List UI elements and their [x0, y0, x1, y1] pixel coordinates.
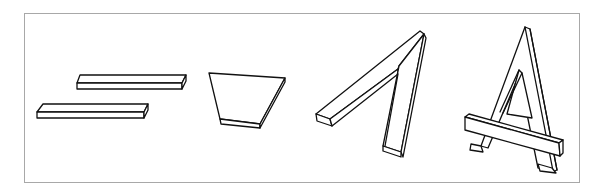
- step-3-seven-frame: [316, 31, 426, 157]
- assembly-diagram: [0, 0, 606, 192]
- step-4-a-frame: [465, 27, 563, 173]
- plank-lower: [37, 104, 148, 118]
- step-1-planks: [37, 75, 186, 118]
- step-2-trapezoid: [209, 73, 285, 128]
- plank-upper: [77, 75, 186, 89]
